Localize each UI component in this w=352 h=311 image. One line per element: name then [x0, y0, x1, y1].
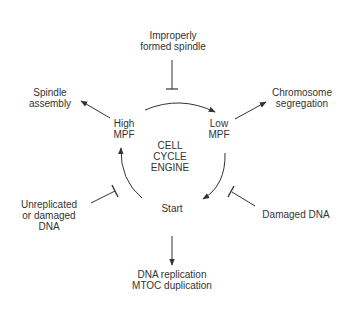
arrow-to-spindle-assembly	[81, 101, 110, 118]
arrow-to-chromosome-segregation	[235, 102, 266, 119]
label-unreplicated-dna: Unreplicated or damaged DNA	[16, 199, 82, 232]
label-spindle-assembly: Spindle assembly	[22, 87, 78, 109]
inhibit-unreplicated-line	[91, 191, 115, 203]
label-damaged-dna: Damaged DNA	[258, 209, 334, 220]
label-chromosome-segregation: Chromosome segregation	[266, 87, 338, 109]
label-start: Start	[152, 203, 192, 214]
label-dna-replication: DNA replication MTOC duplication	[122, 269, 222, 291]
arrow-low-to-start	[203, 153, 225, 199]
inhibit-damaged-bar	[228, 186, 234, 197]
label-high-mpf: High MPF	[110, 118, 138, 140]
inhibit-unreplicated-bar	[112, 185, 118, 197]
arrow-high-to-low	[145, 103, 215, 112]
label-improperly-formed-spindle: Improperly formed spindle	[131, 30, 215, 52]
inhibit-damaged-line	[232, 192, 255, 206]
label-cell-cycle-engine: CELL CYCLE ENGINE	[145, 140, 195, 173]
cell-cycle-diagram: Improperly formed spindle Spindle assemb…	[0, 0, 352, 311]
label-low-mpf: Low MPF	[205, 118, 233, 140]
arrow-start-to-high	[121, 148, 142, 198]
